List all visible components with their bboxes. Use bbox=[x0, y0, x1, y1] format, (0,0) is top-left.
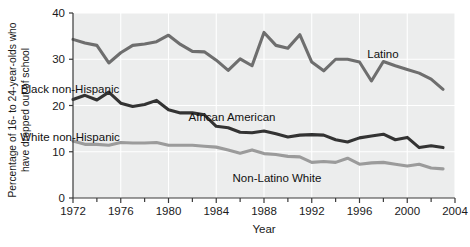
x-tick-label: 1972 bbox=[60, 205, 86, 217]
x-tick-label: 1988 bbox=[251, 205, 277, 217]
x-tick-label: 1980 bbox=[156, 205, 182, 217]
y-tick-label: 10 bbox=[52, 146, 65, 158]
series-annotation-latino: Latino bbox=[367, 48, 398, 60]
x-tick-label: 2004 bbox=[442, 205, 468, 217]
y-tick-label: 30 bbox=[52, 53, 65, 65]
x-tick-label: 1992 bbox=[299, 205, 325, 217]
y-tick-label: 40 bbox=[52, 7, 65, 19]
x-tick-label: 2000 bbox=[394, 205, 420, 217]
series-annotation-african-american: Black non-Hispanic bbox=[21, 83, 120, 95]
series-annotation-non-latino-white: White non-Hispanic bbox=[20, 131, 120, 143]
y-tick-label: 20 bbox=[52, 100, 65, 112]
y-axis-title-line-1: Percentage of 16- to 24-year-olds who bbox=[7, 22, 18, 197]
series-annotation-non-latino-white: Non-Latino White bbox=[233, 172, 322, 184]
line-chart-svg: 010203040 197219761980198419881992199620… bbox=[0, 0, 470, 247]
x-tick-label: 1976 bbox=[108, 205, 134, 217]
series-annotation-african-american: African American bbox=[189, 111, 276, 123]
x-tick-label: 1984 bbox=[203, 205, 229, 217]
y-tick-label: 0 bbox=[59, 192, 65, 204]
chart-figure: 010203040 197219761980198419881992199620… bbox=[0, 0, 470, 247]
x-axis-title: Year bbox=[252, 223, 275, 235]
x-tick-label: 1996 bbox=[347, 205, 373, 217]
y-axis-title-line-2: have dropped out of school bbox=[20, 48, 31, 172]
